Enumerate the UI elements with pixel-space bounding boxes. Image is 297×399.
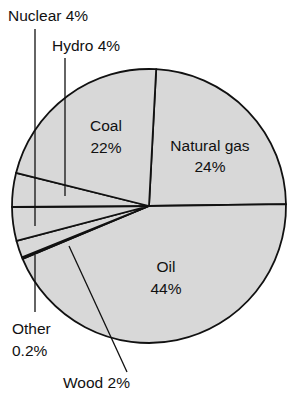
other-callout-label: Other [12, 320, 51, 337]
hydro-callout-label: Hydro 4% [52, 37, 120, 54]
natural-gas-slice-label: Natural gas [170, 137, 250, 154]
nuclear-callout-label: Nuclear 4% [8, 7, 88, 24]
oil-slice-label: Oil [157, 258, 176, 275]
wood-callout-label: Wood 2% [63, 374, 130, 391]
other-callout-value: 0.2% [12, 342, 48, 359]
pie-chart-figure: Coal 22% Natural gas 24% Oil 44% Nuclear… [0, 0, 297, 399]
coal-slice-label: Coal [90, 117, 122, 134]
coal-slice-value: 22% [90, 139, 121, 156]
pie-chart-svg: Coal 22% Natural gas 24% Oil 44% Nuclear… [0, 0, 297, 399]
pie-slice-group [12, 69, 286, 343]
natural-gas-slice-value: 24% [194, 158, 225, 175]
oil-slice-value: 44% [150, 280, 181, 297]
